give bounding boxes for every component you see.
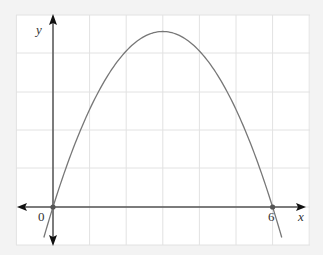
parabola-chart: y x 0 6 bbox=[0, 0, 323, 255]
y-axis-label: y bbox=[34, 22, 42, 37]
origin-label: 0 bbox=[38, 209, 45, 224]
origin-point bbox=[50, 204, 55, 209]
x-axis-label: x bbox=[297, 209, 304, 224]
x-tick-label-6: 6 bbox=[268, 209, 275, 224]
